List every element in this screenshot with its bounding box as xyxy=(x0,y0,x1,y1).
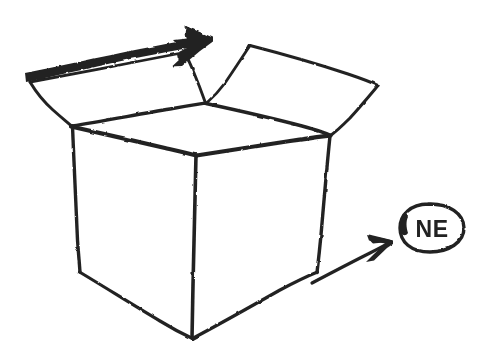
box-sketch-illustration: NE xyxy=(0,0,501,358)
ne-label-text: NE xyxy=(416,216,449,242)
sketch-canvas: NE xyxy=(0,0,501,358)
